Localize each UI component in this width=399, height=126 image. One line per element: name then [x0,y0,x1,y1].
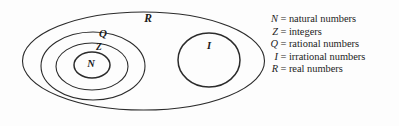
set-ellipse-real [23,12,265,110]
legend-item-integers: Z=integers [268,26,399,39]
legend-equals-natural: = [278,13,289,26]
legend-symbol-rational: Q [268,38,278,51]
set-label-rational: Q [99,27,107,39]
legend-equals-irrational: = [278,51,289,64]
set-label-natural: N [86,58,95,69]
legend-description-real: real numbers [289,63,343,74]
legend-item-rational: Q=rational numbers [268,38,399,51]
legend: N=natural numbers Z=integers Q=rational … [268,13,399,76]
legend-item-real: R=real numbers [268,63,399,76]
number-systems-venn-figure: R Q Z N I N=natural numbers Z=integers Q… [0,0,399,126]
legend-equals-real: = [278,63,289,76]
legend-equals-rational: = [278,38,289,51]
legend-item-natural: N=natural numbers [268,13,399,26]
legend-symbol-irrational: I [268,51,278,64]
legend-symbol-natural: N [268,13,278,26]
legend-equals-integers: = [278,26,289,39]
legend-description-natural: natural numbers [289,13,356,24]
legend-symbol-integers: Z [268,26,278,39]
set-label-integers: Z [95,42,102,52]
legend-item-irrational: I=irrational numbers [268,51,399,64]
set-label-real: R [143,12,152,24]
venn-diagram: R Q Z N I [0,0,268,126]
legend-description-irrational: irrational numbers [289,51,365,62]
legend-description-integers: integers [289,26,322,37]
set-label-irrational: I [206,40,212,51]
legend-description-rational: rational numbers [289,38,359,49]
legend-symbol-real: R [268,63,278,76]
